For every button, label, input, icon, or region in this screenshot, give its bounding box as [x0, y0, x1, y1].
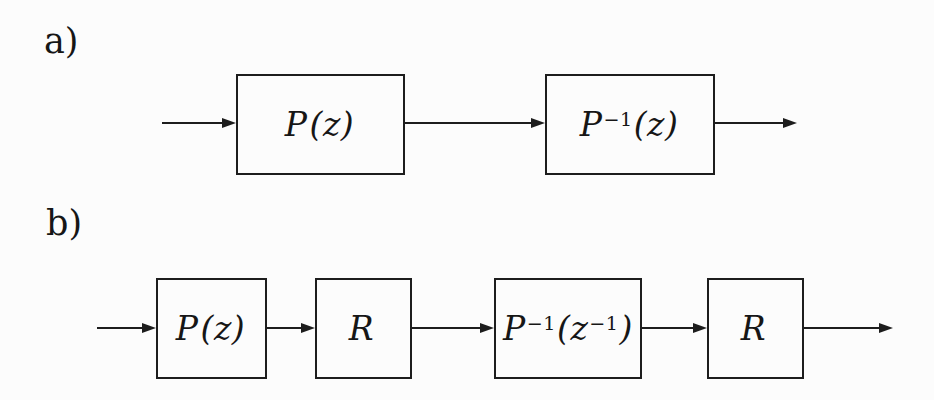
connector-line-b1	[267, 327, 301, 329]
label-arg: (z)	[201, 309, 246, 348]
arrowhead-icon	[301, 323, 315, 333]
block-r2-b: R	[707, 278, 804, 379]
arrowhead-icon	[783, 118, 797, 128]
block-label: P−1(z−1)	[503, 309, 633, 348]
label-sup: −1	[527, 312, 556, 335]
label-base: P	[285, 105, 308, 144]
label-base: R	[349, 309, 374, 348]
label-sup2: −1	[589, 312, 618, 335]
connector-line-a	[405, 122, 533, 124]
connector-line-b3	[642, 327, 694, 329]
label-base: P	[503, 309, 526, 348]
connector-line-b2	[412, 327, 480, 329]
label-arg: (z	[557, 309, 588, 348]
block-label: P−1(z)	[580, 105, 681, 144]
block-label: P(z)	[285, 105, 356, 144]
block-pz-a: P(z)	[236, 74, 405, 175]
arrowhead-icon	[480, 323, 494, 333]
panel-label-a: a)	[44, 24, 79, 59]
label-base: R	[741, 309, 766, 348]
block-pz-b: P(z)	[156, 278, 267, 379]
label-close: )	[620, 309, 633, 348]
filter-block-diagram: a) P(z) P−1(z) b) P(z) R P−1(z−1) R	[0, 0, 934, 400]
panel-label-b: b)	[46, 206, 82, 241]
label-arg: (z)	[634, 105, 679, 144]
block-label: R	[741, 309, 770, 348]
arrowhead-icon	[879, 323, 893, 333]
arrowhead-icon	[142, 323, 156, 333]
arrowhead-icon	[693, 323, 707, 333]
output-signal-line-b	[804, 327, 880, 329]
block-pinv-b: P−1(z−1)	[494, 278, 642, 379]
arrowhead-icon	[531, 118, 545, 128]
label-sup: −1	[603, 108, 632, 131]
label-arg: (z)	[310, 105, 355, 144]
block-pinv-a: P−1(z)	[545, 74, 715, 175]
input-signal-line-a	[162, 122, 224, 124]
block-label: P(z)	[176, 309, 247, 348]
input-signal-line-b	[97, 327, 143, 329]
arrowhead-icon	[222, 118, 236, 128]
label-base: P	[176, 309, 199, 348]
block-label: R	[349, 309, 378, 348]
label-base: P	[580, 105, 603, 144]
block-r1-b: R	[315, 278, 412, 379]
output-signal-line-a	[715, 122, 784, 124]
